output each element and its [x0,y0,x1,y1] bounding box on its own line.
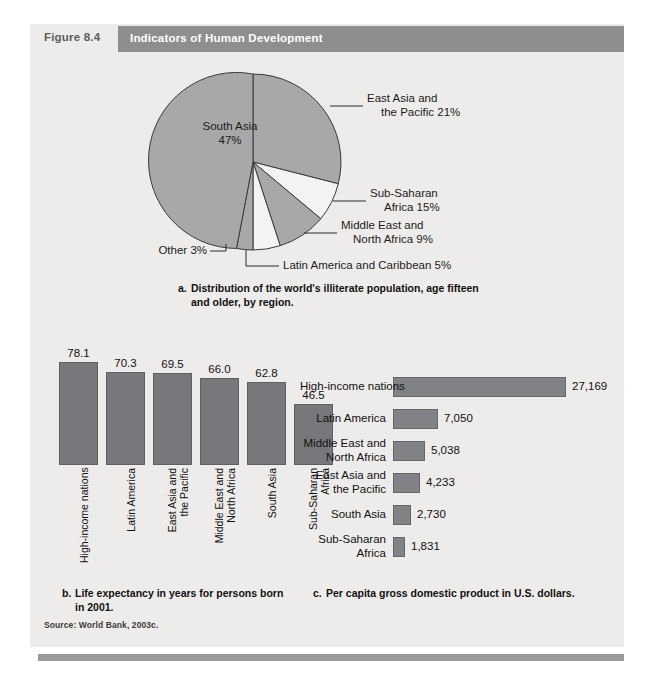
pie-label-south-asia: South Asia 47% [182,120,278,147]
figure-title: Indicators of Human Development [130,32,323,44]
bar-value-east-asia-and-the-pacific: 69.5 [153,358,192,370]
hbar-value-south-asia: 2,730 [417,508,446,520]
hbar-label-high-income-nations: High-income nations [300,380,386,394]
figure-page: Figure 8.4 Indicators of Human Developme… [0,0,654,690]
bar-middle-east-and-north-africa [200,378,239,465]
hbar-south-asia [393,505,411,525]
caption-b-text: Life expectancy in years for persons bor… [75,586,285,614]
caption-a-letter: a. [178,281,191,295]
caption-c-letter: c. [313,586,326,600]
bar-value-south-asia: 62.8 [247,367,286,379]
caption-a: a.Distribution of the world's illiterate… [178,281,508,309]
hbar-value-east-asia-and-the-pacific: 4,233 [426,476,455,488]
pie-slice-south-asia [149,72,253,248]
pie-label-east-asia-and-the-pacific: East Asia and the Pacific 21% [367,92,460,119]
hbar-high-income-nations [393,377,566,397]
hbar-value-latin-america: 7,050 [444,412,473,424]
caption-c-text: Per capita gross domestic product in U.S… [326,586,606,600]
hbar-label-south-asia: South Asia [300,508,386,522]
bar-value-high-income-nations: 78.1 [59,347,98,359]
caption-c: c.Per capita gross domestic product in U… [313,586,613,600]
bar-label-latin-america: Latin America [125,468,137,563]
hbar-value-middle-east-and-north-africa: 5,038 [431,444,460,456]
pie-label-latin-america-and-caribbean: Latin America and Caribbean 5% [283,259,451,273]
hbar-value-sub-saharan-africa: 1,831 [411,540,440,552]
bar-chart-b: 78.1 70.3 69.5 66.0 62.8 46.5 High-incom… [30,345,320,575]
hbar-label-latin-america: Latin America [300,412,386,426]
hbar-label-east-asia-and-the-pacific: East Asia and the Pacific [300,469,386,496]
pie-label-middle-east-and-north-africa: Middle East and North Africa 9% [341,219,433,246]
hbar-east-asia-and-the-pacific [393,473,420,493]
figure-header: Figure 8.4 Indicators of Human Developme… [30,26,624,52]
hbar-label-middle-east-and-north-africa: Middle East and North Africa [300,437,386,464]
hbar-middle-east-and-north-africa [393,441,425,461]
bar-value-latin-america: 70.3 [106,357,145,369]
bar-value-middle-east-and-north-africa: 66.0 [200,363,239,375]
bar-latin-america [106,372,145,465]
figure-title-bar: Indicators of Human Development [118,26,624,52]
bar-label-middle-east-and-north-africa: Middle East and North Africa [213,468,237,563]
source-note: Source: World Bank, 2003c. [44,620,158,630]
bar-label-south-asia: South Asia [266,468,278,563]
pie-leader-latin-america [246,250,279,266]
figure-number: Figure 8.4 [44,31,100,43]
bar-south-asia [247,382,286,465]
pie-label-other: Other 3% [145,244,207,258]
bar-label-high-income-nations: High-income nations [78,468,90,563]
pie-chart-a: East Asia and the Pacific 21% Sub-Sahara… [30,58,624,273]
hbar-latin-america [393,409,438,429]
caption-a-text: Distribution of the world's illiterate p… [191,281,491,309]
pie-label-sub-saharan-africa: Sub-Saharan Africa 15% [370,187,440,214]
bar-high-income-nations [59,362,98,465]
caption-b: b.Life expectancy in years for persons b… [62,586,312,614]
bar-chart-c: 27,169 7,050 5,038 4,233 2,730 1,831 Hig… [300,368,624,573]
pie-chart-svg [30,58,624,273]
bar-label-east-asia-and-the-pacific: East Asia and the Pacific [166,468,190,563]
footer-rule [38,654,624,661]
bar-east-asia-and-the-pacific [153,373,192,465]
caption-b-letter: b. [62,586,75,600]
hbar-sub-saharan-africa [393,537,405,557]
hbar-value-high-income-nations: 27,169 [572,380,607,392]
hbar-label-sub-saharan-africa: Sub-Saharan Africa [300,533,386,560]
